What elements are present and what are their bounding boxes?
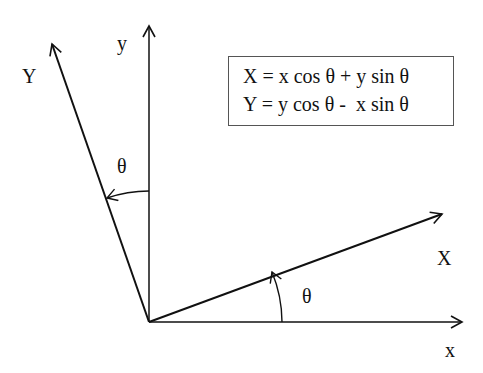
equation-Y: Y = y cos θ - x sin θ (243, 93, 409, 116)
angle-arc-lower (272, 272, 282, 322)
Y-rotated-axis (52, 44, 149, 322)
X-rotated-axis (149, 214, 442, 322)
equation-X: X = x cos θ + y sin θ (243, 65, 409, 88)
angle-arc-upper (107, 191, 149, 198)
Y-axis-label: Y (22, 65, 36, 87)
y-axis-label: y (117, 32, 127, 55)
theta-label-upper: θ (117, 155, 127, 177)
x-axis-label: x (445, 339, 455, 361)
X-axis-label: X (437, 247, 452, 269)
theta-label-lower: θ (302, 285, 312, 307)
equation-box: X = x cos θ + y sin θ Y = y cos θ - x si… (228, 56, 454, 126)
